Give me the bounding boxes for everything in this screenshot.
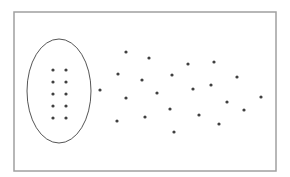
grouped-point <box>51 104 54 107</box>
scattered-point <box>116 72 119 75</box>
scattered-point <box>172 130 175 133</box>
cluster-diagram <box>0 0 290 177</box>
grouped-points <box>51 68 67 119</box>
scattered-point <box>155 91 158 94</box>
scattered-point <box>235 75 238 78</box>
scattered-point <box>242 108 245 111</box>
scattered-point <box>147 56 150 59</box>
grouped-point <box>51 116 54 119</box>
scattered-point <box>170 73 173 76</box>
scattered-point <box>191 87 194 90</box>
scattered-point <box>225 100 228 103</box>
cluster-ellipse <box>27 39 91 143</box>
grouped-point <box>64 68 67 71</box>
scattered-point <box>186 62 189 65</box>
scattered-point <box>115 119 118 122</box>
grouped-point <box>64 80 67 83</box>
grouped-point <box>64 92 67 95</box>
grouped-point <box>64 104 67 107</box>
grouped-point <box>64 116 67 119</box>
grouped-point <box>51 92 54 95</box>
scattered-point <box>124 96 127 99</box>
scattered-point <box>217 122 220 125</box>
diagram-frame <box>14 12 276 171</box>
scattered-point <box>140 78 143 81</box>
scattered-point <box>209 83 212 86</box>
scattered-point <box>143 115 146 118</box>
scattered-point <box>212 60 215 63</box>
scattered-point <box>259 95 262 98</box>
grouped-point <box>51 80 54 83</box>
scattered-point <box>168 107 171 110</box>
scattered-point <box>197 113 200 116</box>
scattered-point <box>124 50 127 53</box>
grouped-point <box>51 68 54 71</box>
scattered-points <box>98 50 262 133</box>
scattered-point <box>98 88 101 91</box>
